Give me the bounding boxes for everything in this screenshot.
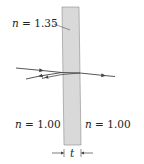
incident-ray xyxy=(16,68,62,73)
thin-film-diagram: n = 1.35 n = 1.00 n = 1.00 t xyxy=(0,0,144,164)
thickness-label: t xyxy=(70,147,75,159)
film-slab xyxy=(62,7,81,145)
transmitted-ray xyxy=(80,73,115,77)
right-medium-index-label: n = 1.00 xyxy=(85,118,131,130)
left-medium-index-label: n = 1.00 xyxy=(15,118,61,130)
slab-index-label: n = 1.35 xyxy=(12,17,58,29)
thickness-dimension: t xyxy=(52,147,93,159)
